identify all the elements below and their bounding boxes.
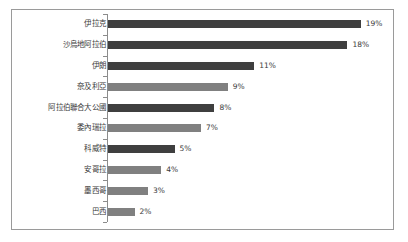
bar (108, 20, 361, 28)
bar (108, 166, 161, 174)
bar-row: 伊朗11% (12, 56, 393, 77)
bar-category-label: 安哥拉 (84, 166, 106, 174)
bar-value-label: 9% (233, 83, 245, 91)
bar-category-label: 奈及利亞 (77, 83, 106, 91)
bar-row: 沙烏地阿拉伯18% (12, 35, 393, 56)
bar (108, 145, 175, 153)
bar-row: 墨西哥3% (12, 180, 393, 201)
bar-chart-plot-area: 伊拉克19%沙烏地阿拉伯18%伊朗11%奈及利亞9%阿拉伯聯合大公國8%委內瑞拉… (12, 10, 393, 229)
bar (108, 104, 214, 112)
bar-value-label: 3% (153, 187, 165, 195)
bar-row: 伊拉克19% (12, 14, 393, 35)
bar-row: 科威特5% (12, 139, 393, 160)
bar-row: 阿拉伯聯合大公國8% (12, 97, 393, 118)
bar-row: 委內瑞拉7% (12, 118, 393, 139)
bar (108, 41, 347, 49)
bar-category-label: 科威特 (84, 145, 106, 153)
bar-category-label: 阿拉伯聯合大公國 (48, 104, 106, 112)
axis-tick (103, 222, 107, 223)
bar-category-label: 沙烏地阿拉伯 (63, 41, 106, 49)
bar-category-label: 伊朗 (92, 62, 106, 70)
bar-row: 安哥拉4% (12, 160, 393, 181)
bar (108, 62, 254, 70)
bar (108, 208, 135, 216)
bar-value-label: 7% (206, 125, 218, 133)
chart-frame: 伊拉克19%沙烏地阿拉伯18%伊朗11%奈及利亞9%阿拉伯聯合大公國8%委內瑞拉… (11, 9, 394, 230)
bar-row: 奈及利亞9% (12, 76, 393, 97)
bar-category-label: 墨西哥 (84, 187, 106, 195)
bar-value-label: 8% (219, 104, 231, 112)
bar (108, 83, 228, 91)
bar-category-label: 巴西 (92, 208, 106, 216)
bar (108, 124, 201, 132)
bar (108, 187, 148, 195)
bar-value-label: 2% (140, 208, 152, 216)
bar-value-label: 5% (180, 145, 192, 153)
bar-category-label: 委內瑞拉 (77, 125, 106, 133)
bar-value-label: 11% (259, 62, 276, 70)
bar-value-label: 4% (166, 166, 178, 174)
bar-row: 巴西2% (12, 201, 393, 222)
bar-value-label: 18% (352, 41, 369, 49)
bar-category-label: 伊拉克 (84, 21, 106, 29)
bar-value-label: 19% (366, 21, 383, 29)
